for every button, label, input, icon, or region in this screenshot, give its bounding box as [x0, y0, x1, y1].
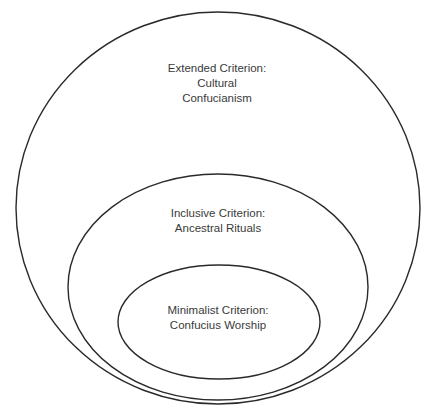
minimalist-criterion-title: Minimalist Criterion:: [168, 303, 269, 318]
inclusive-criterion-label: Inclusive Criterion: Ancestral Rituals: [171, 206, 266, 236]
minimalist-criterion-subtitle: Confucius Worship: [168, 318, 269, 333]
inclusive-criterion-title: Inclusive Criterion:: [171, 206, 266, 221]
inclusive-criterion-subtitle: Ancestral Rituals: [171, 221, 266, 236]
extended-criterion-title: Extended Criterion:: [168, 61, 266, 76]
extended-criterion-line3: Confucianism: [168, 91, 266, 106]
extended-criterion-line2: Cultural: [168, 76, 266, 91]
minimalist-criterion-label: Minimalist Criterion: Confucius Worship: [168, 303, 269, 333]
extended-criterion-label: Extended Criterion: Cultural Confucianis…: [168, 61, 266, 106]
